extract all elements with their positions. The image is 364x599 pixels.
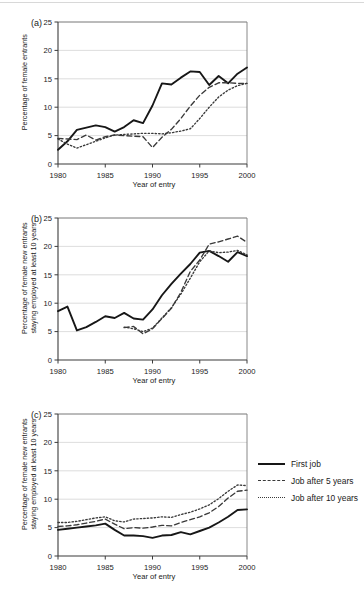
tick-label-y-10: 10 bbox=[44, 103, 52, 112]
panel-a-x-axis-title: Year of entry bbox=[54, 180, 254, 189]
tick-label-x-1980: 1980 bbox=[50, 563, 67, 572]
series-line-job-after-5-years bbox=[58, 83, 247, 148]
series-line-first-job bbox=[58, 67, 247, 149]
tick-label-y-15: 15 bbox=[44, 75, 52, 84]
tick-label-y-0: 0 bbox=[48, 356, 52, 365]
legend-label-first-job: First job bbox=[291, 459, 321, 469]
tick-label-y-20: 20 bbox=[44, 438, 52, 447]
tick-label-x-1985: 1985 bbox=[97, 171, 114, 180]
tick-label-y-5: 5 bbox=[48, 131, 52, 140]
tick-label-x-1990: 1990 bbox=[144, 171, 161, 180]
chart-panel-a: (a) Percentage of female entrants 051015… bbox=[0, 0, 364, 196]
legend-swatch-dotted-line-icon bbox=[258, 493, 285, 503]
tick-label-x-2000: 2000 bbox=[239, 171, 256, 180]
series-line-job-after-10-years bbox=[58, 485, 247, 522]
tick-label-y-25: 25 bbox=[44, 410, 52, 419]
tick-label-y-5: 5 bbox=[48, 523, 52, 532]
chart-panel-b: (b) Percentage of female new entrants st… bbox=[0, 196, 364, 392]
legend-label-job-after-10-years: Job after 10 years bbox=[291, 493, 358, 503]
panel-b-x-axis-title: Year of entry bbox=[54, 376, 254, 385]
chart-panel-c: (c) Percentage of female new entrants st… bbox=[0, 392, 364, 599]
tick-label-x-1980: 1980 bbox=[50, 171, 67, 180]
tick-label-y-5: 5 bbox=[48, 327, 52, 336]
legend-swatch-dashed-line-icon bbox=[258, 476, 285, 486]
tick-label-y-0: 0 bbox=[48, 160, 52, 169]
legend-item-job-after-10-years: Job after 10 years bbox=[258, 489, 358, 506]
legend-item-first-job: First job bbox=[258, 455, 358, 472]
tick-label-y-20: 20 bbox=[44, 242, 52, 251]
tick-label-x-2000: 2000 bbox=[239, 367, 256, 376]
series-line-job-after-10-years bbox=[58, 83, 247, 148]
tick-label-y-25: 25 bbox=[44, 18, 52, 27]
tick-label-x-1990: 1990 bbox=[144, 367, 161, 376]
panel-c-x-axis-title: Year of entry bbox=[54, 572, 254, 581]
tick-label-y-15: 15 bbox=[44, 467, 52, 476]
tick-label-y-10: 10 bbox=[44, 495, 52, 504]
tick-label-x-1990: 1990 bbox=[144, 563, 161, 572]
panel-b-plot: 051015202519801985199019952000 bbox=[0, 196, 364, 392]
tick-label-x-1985: 1985 bbox=[97, 367, 114, 376]
tick-label-x-1985: 1985 bbox=[97, 563, 114, 572]
figure-container: (a) Percentage of female entrants 051015… bbox=[0, 0, 364, 599]
legend-label-job-after-5-years: Job after 5 years bbox=[291, 476, 353, 486]
tick-label-x-1995: 1995 bbox=[191, 367, 208, 376]
tick-label-x-1995: 1995 bbox=[191, 171, 208, 180]
tick-label-y-20: 20 bbox=[44, 46, 52, 55]
tick-label-y-10: 10 bbox=[44, 299, 52, 308]
tick-label-y-25: 25 bbox=[44, 214, 52, 223]
chart-legend: First job Job after 5 years Job after 10… bbox=[258, 455, 358, 506]
legend-swatch-solid-line-icon bbox=[258, 459, 285, 469]
tick-label-x-1995: 1995 bbox=[191, 563, 208, 572]
legend-item-job-after-5-years: Job after 5 years bbox=[258, 472, 358, 489]
series-line-first-job bbox=[58, 251, 247, 331]
tick-label-y-15: 15 bbox=[44, 271, 52, 280]
tick-label-x-1980: 1980 bbox=[50, 367, 67, 376]
tick-label-x-2000: 2000 bbox=[239, 563, 256, 572]
panel-a-plot: 051015202519801985199019952000 bbox=[0, 0, 364, 196]
tick-label-y-0: 0 bbox=[48, 552, 52, 561]
